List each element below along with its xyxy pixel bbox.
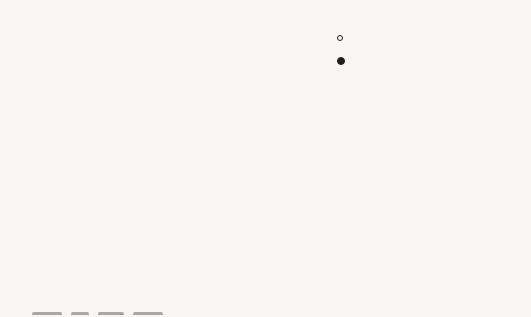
legend-item-experimental bbox=[337, 31, 352, 44]
filled-circle-marker-icon bbox=[337, 57, 345, 65]
thermal-expansion-chart bbox=[0, 0, 531, 317]
legend-item-theory bbox=[337, 54, 352, 67]
y-axis-label bbox=[5, 3, 20, 253]
legend bbox=[337, 31, 352, 77]
plot-area bbox=[0, 0, 531, 317]
cropped-caption-remnant bbox=[32, 312, 172, 316]
open-circle-marker-icon bbox=[337, 35, 343, 41]
